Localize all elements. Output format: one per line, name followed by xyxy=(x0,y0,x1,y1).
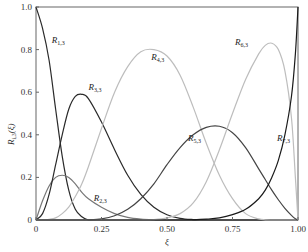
x-axis-label: ξ xyxy=(165,237,169,247)
curve-r1-3 xyxy=(36,7,298,220)
y-axis-label-arg: (ξ) xyxy=(6,123,16,133)
x-tick-label: 0.75 xyxy=(225,224,241,234)
y-tick-label: 0.2 xyxy=(21,172,32,182)
curve-r4-3 xyxy=(36,49,298,220)
curve-r3-3 xyxy=(36,94,298,220)
x-tick-label: 0 xyxy=(34,224,39,234)
curve-r6-3 xyxy=(36,43,298,220)
y-tick-label: 0.4 xyxy=(21,130,33,140)
curve-label-3-3: R3,3 xyxy=(87,82,101,93)
curve-r5-3 xyxy=(36,126,298,220)
y-tick-label: 1.0 xyxy=(21,2,33,12)
y-tick-label: 0 xyxy=(28,215,33,225)
y-axis-label: Ri,3(ξ) xyxy=(6,123,17,146)
x-tick-label: 1.00 xyxy=(290,224,306,234)
curve-label-4-3: R4,3 xyxy=(150,52,164,63)
chart: 00.20.40.60.81.0 00.250.500.751.00 R1,3R… xyxy=(0,0,308,252)
curve-label-7-3: R7,3 xyxy=(276,133,290,144)
x-tick-label: 0.25 xyxy=(94,224,110,234)
svg-text:Ri,3(ξ): Ri,3(ξ) xyxy=(6,123,17,146)
y-tick-label: 0.8 xyxy=(21,45,33,55)
curve-r7-3 xyxy=(36,7,298,220)
curve-label-1-3: R1,3 xyxy=(51,35,65,46)
x-tick-label: 0.50 xyxy=(159,224,175,234)
curves xyxy=(36,7,298,220)
curve-label-2-3: R2,3 xyxy=(93,193,107,204)
plot-frame xyxy=(36,7,298,220)
curve-label-6-3: R6,3 xyxy=(234,37,248,48)
y-tick-label: 0.6 xyxy=(21,87,33,97)
